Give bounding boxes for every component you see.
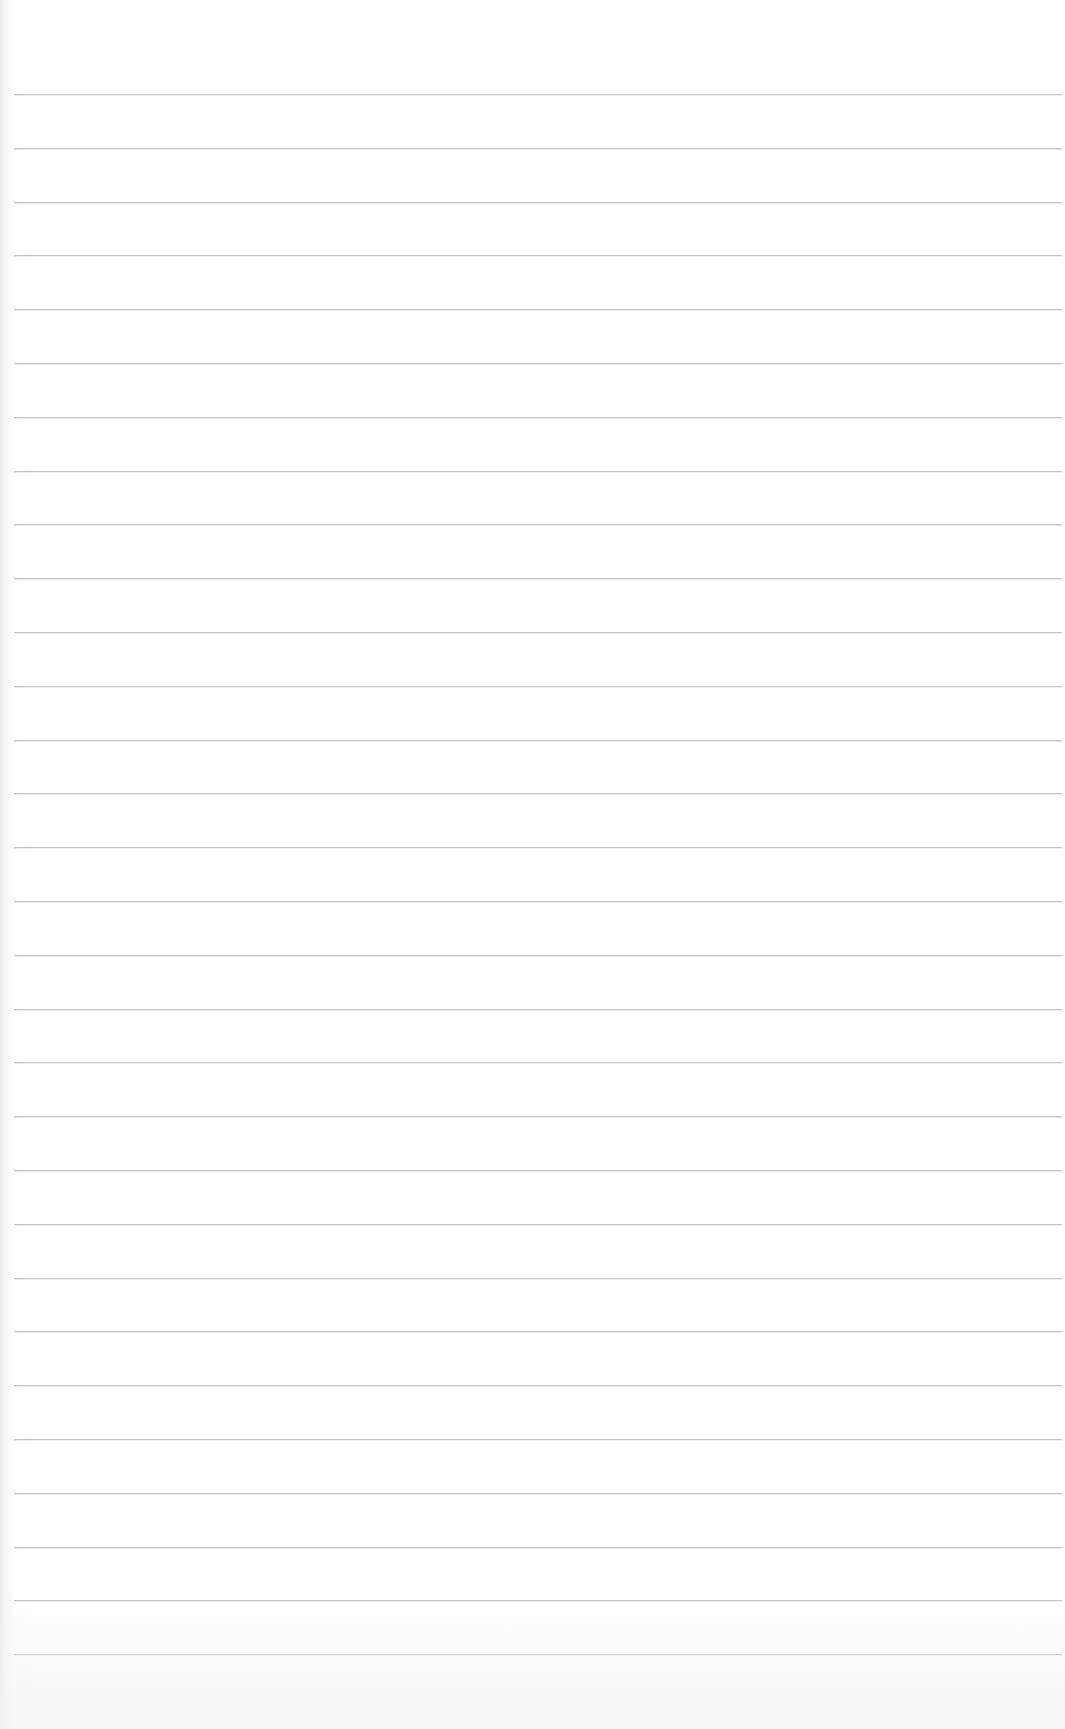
ruled-line bbox=[14, 1385, 1062, 1386]
ruled-line bbox=[14, 686, 1062, 687]
ruled-line bbox=[14, 793, 1062, 794]
ruled-line bbox=[14, 1062, 1062, 1063]
ruled-line bbox=[14, 578, 1062, 579]
lined-paper-sheet bbox=[0, 0, 1065, 1729]
ruled-line bbox=[14, 1654, 1062, 1655]
ruled-line bbox=[14, 740, 1062, 741]
ruled-line bbox=[14, 309, 1062, 310]
ruled-line bbox=[14, 1278, 1062, 1279]
ruled-line bbox=[14, 148, 1062, 149]
ruled-line bbox=[14, 1224, 1062, 1225]
ruled-line bbox=[14, 1439, 1062, 1440]
ruled-line bbox=[14, 1331, 1062, 1332]
ruled-line bbox=[14, 1493, 1062, 1494]
ruled-line bbox=[14, 1170, 1062, 1171]
ruled-line bbox=[14, 471, 1062, 472]
ruled-line bbox=[14, 1009, 1062, 1010]
ruled-line bbox=[14, 847, 1062, 848]
ruled-line bbox=[14, 417, 1062, 418]
ruled-line bbox=[14, 202, 1062, 203]
ruled-line bbox=[14, 901, 1062, 902]
ruled-line bbox=[14, 363, 1062, 364]
ruled-line bbox=[14, 1547, 1062, 1548]
ruled-line bbox=[14, 632, 1062, 633]
ruled-line bbox=[14, 1116, 1062, 1117]
ruled-line bbox=[14, 94, 1062, 95]
ruled-line bbox=[14, 524, 1062, 525]
ruled-line bbox=[14, 955, 1062, 956]
ruled-line bbox=[14, 1600, 1062, 1601]
ruled-line bbox=[14, 255, 1062, 256]
